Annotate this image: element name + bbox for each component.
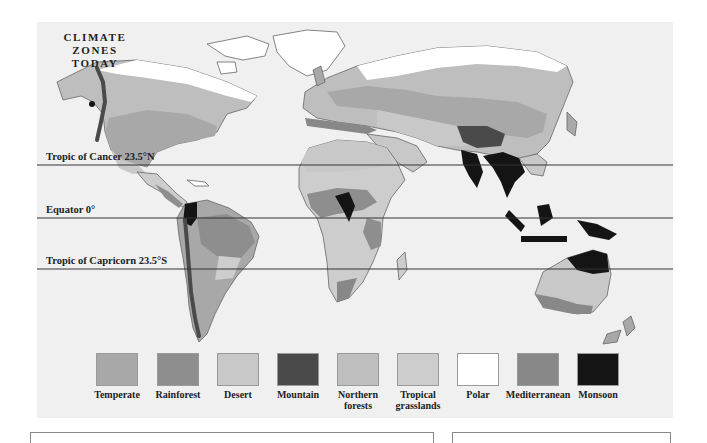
map-title-line-2: ZONES [50, 44, 140, 57]
climate-map-panel: CLIMATE ZONES TODAY Tropic of Cancer 23.… [37, 22, 673, 418]
rainforest-swatch [157, 353, 199, 386]
tropic-of-cancer-label: Tropic of Cancer 23.5°N [46, 151, 155, 162]
monsoon-swatch [577, 353, 619, 386]
map-title: CLIMATE ZONES TODAY [50, 31, 140, 70]
legend-item-monsoon: Monsoon [558, 353, 638, 400]
south-america [177, 200, 259, 342]
northern-forests-swatch [337, 353, 379, 386]
tropical-grasslands-swatch [397, 353, 439, 386]
text-box-left [30, 432, 434, 443]
tropic-of-capricorn-label: Tropic of Capricorn 23.5°S [46, 255, 167, 266]
text-box-right [452, 432, 671, 443]
temperate-swatch [96, 353, 138, 386]
mountain-swatch [277, 353, 319, 386]
map-title-line-1: CLIMATE [50, 31, 140, 44]
desert-swatch [217, 353, 259, 386]
equator-label: Equator 0° [46, 204, 95, 215]
legend-label-line-2: grasslands [378, 400, 458, 411]
climate-legend: Temperate Rainforest Desert Mountain Nor… [37, 353, 673, 413]
africa [299, 140, 407, 302]
polar-swatch [457, 353, 499, 386]
australia [535, 250, 635, 344]
legend-label: Monsoon [558, 389, 638, 400]
mediterranean-swatch [517, 353, 559, 386]
map-title-line-3: TODAY [50, 57, 140, 70]
